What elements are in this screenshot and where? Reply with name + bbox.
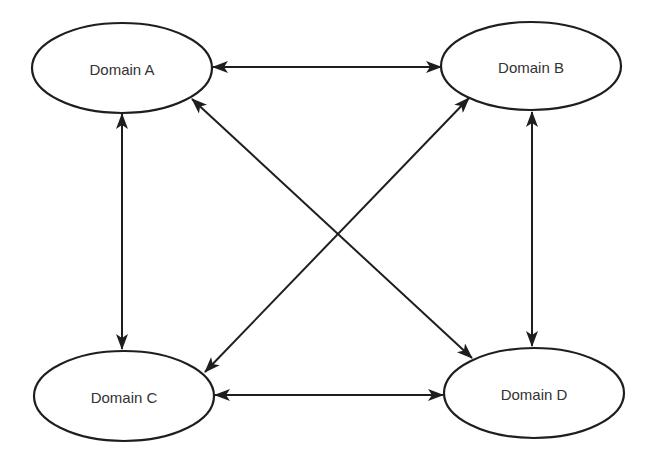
edges [122,67,532,395]
node-domain-d: Domain D [444,348,624,438]
nodes: Domain A Domain B Domain C Domain D [32,22,624,441]
node-label: Domain C [91,389,158,406]
node-label: Domain A [89,61,154,78]
domain-network-diagram: Domain A Domain B Domain C Domain D [0,0,653,459]
node-label: Domain B [498,59,564,76]
node-domain-b: Domain B [441,22,621,110]
node-domain-a: Domain A [32,23,212,113]
node-label: Domain D [501,386,568,403]
node-domain-c: Domain C [34,351,214,441]
edge-b-c [205,98,469,372]
